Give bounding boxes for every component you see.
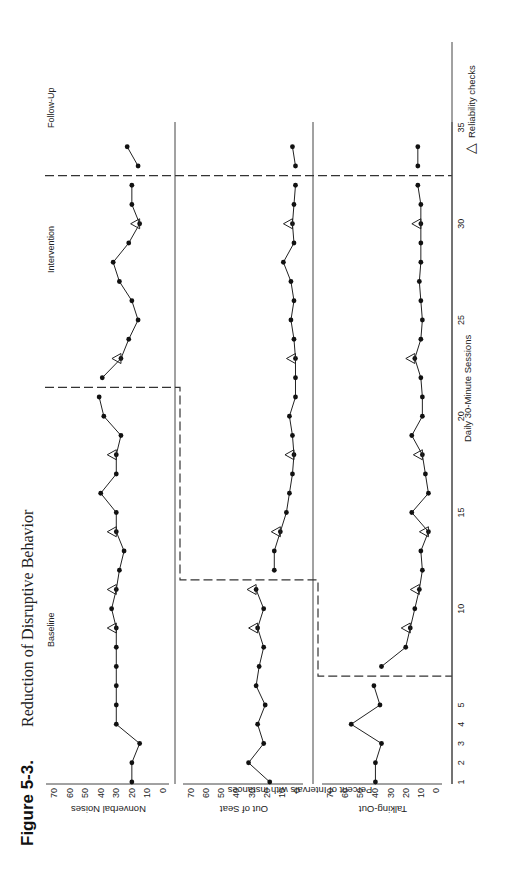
data-point bbox=[137, 741, 142, 746]
y-tick-label: 40 bbox=[96, 788, 106, 798]
data-point bbox=[129, 298, 134, 303]
y-tick-label: 50 bbox=[216, 788, 226, 798]
x-tick-label: 10 bbox=[456, 604, 466, 614]
data-point bbox=[412, 606, 417, 611]
x-tick-label: 2 bbox=[456, 760, 466, 765]
data-point bbox=[114, 703, 119, 708]
data-point bbox=[420, 318, 425, 323]
data-point bbox=[423, 472, 428, 477]
data-point bbox=[114, 510, 119, 515]
data-point bbox=[129, 183, 134, 188]
data-point bbox=[373, 760, 378, 765]
figure-title: Figure 5-3. Reduction of Disruptive Beha… bbox=[18, 509, 37, 846]
data-point bbox=[255, 722, 260, 727]
y-tick-label: 20 bbox=[401, 788, 411, 798]
rotated-figure: Figure 5-3. Reduction of Disruptive Beha… bbox=[0, 0, 508, 882]
data-point bbox=[292, 241, 297, 246]
baseline-intervention-divider bbox=[45, 387, 452, 676]
data-point bbox=[420, 395, 425, 400]
data-point bbox=[373, 780, 378, 785]
reliability-triangle-icon: △ bbox=[462, 143, 478, 154]
panel-label: Nonverbal Noises bbox=[71, 804, 146, 815]
data-point bbox=[372, 683, 377, 688]
data-point bbox=[272, 549, 277, 554]
phase-labels: Baseline Intervention Follow-Up bbox=[46, 87, 56, 647]
data-point bbox=[100, 375, 105, 380]
y-tick-label: 0 bbox=[431, 788, 441, 793]
multiple-baseline-chart: Figure 5-3. Reduction of Disruptive Beha… bbox=[0, 0, 508, 882]
data-point bbox=[263, 703, 268, 708]
x-tick-label: 3 bbox=[456, 741, 466, 746]
data-point bbox=[254, 683, 259, 688]
data-point bbox=[109, 606, 114, 611]
y-tick-label: 70 bbox=[186, 788, 196, 798]
y-tick-label: 10 bbox=[416, 788, 426, 798]
data-point bbox=[136, 164, 141, 169]
data-point bbox=[293, 164, 298, 169]
data-point bbox=[261, 606, 266, 611]
y-tick-label: 10 bbox=[142, 788, 152, 798]
data-point bbox=[114, 722, 119, 727]
data-point bbox=[126, 337, 131, 342]
data-point bbox=[119, 433, 124, 438]
data-point bbox=[420, 568, 425, 573]
figure-number: Figure 5-3. bbox=[18, 760, 37, 846]
data-point bbox=[261, 741, 266, 746]
panel-talking-out: 706050403020100Talking-Out bbox=[322, 122, 452, 815]
data-point bbox=[111, 260, 116, 265]
phase-label-baseline: Baseline bbox=[46, 612, 56, 647]
data-point bbox=[126, 241, 131, 246]
data-point bbox=[418, 260, 423, 265]
data-point bbox=[415, 144, 420, 149]
data-point bbox=[114, 683, 119, 688]
panel-out-of-seat: 706050403020100Out of Seat bbox=[183, 122, 313, 815]
data-point bbox=[287, 491, 292, 496]
data-point bbox=[292, 298, 297, 303]
data-point bbox=[122, 549, 127, 554]
data-point bbox=[117, 279, 122, 284]
data-point bbox=[129, 202, 134, 207]
x-tick-label: 30 bbox=[456, 219, 466, 229]
data-point bbox=[246, 760, 251, 765]
x-tick-label: 4 bbox=[456, 722, 466, 727]
data-point bbox=[125, 144, 130, 149]
data-point bbox=[101, 414, 106, 419]
y-tick-label: 20 bbox=[127, 788, 137, 798]
data-point bbox=[290, 144, 295, 149]
data-point bbox=[420, 414, 425, 419]
data-point bbox=[292, 202, 297, 207]
data-point bbox=[418, 549, 423, 554]
y-tick-label: 70 bbox=[49, 788, 59, 798]
data-point bbox=[418, 375, 423, 380]
data-point bbox=[426, 491, 431, 496]
data-point bbox=[292, 337, 297, 342]
x-axis-label: Daily 30-Minute Sessions bbox=[462, 335, 473, 442]
legend-label: Reliability checks bbox=[466, 65, 477, 138]
y-tick-label: 60 bbox=[201, 788, 211, 798]
y-axis-label: Percent of Intervals with Instances bbox=[227, 785, 372, 796]
y-tick-label: 30 bbox=[111, 788, 121, 798]
y-tick-label: 30 bbox=[386, 788, 396, 798]
x-tick-label: 15 bbox=[456, 507, 466, 517]
data-point bbox=[261, 645, 266, 650]
data-point bbox=[293, 183, 298, 188]
data-point bbox=[418, 241, 423, 246]
panel-label: Out of Seat bbox=[220, 804, 268, 815]
y-tick-label: 60 bbox=[65, 788, 75, 798]
data-point bbox=[290, 433, 295, 438]
data-point bbox=[284, 510, 289, 515]
data-point bbox=[379, 741, 384, 746]
data-point bbox=[415, 164, 420, 169]
data-point bbox=[289, 279, 294, 284]
data-point bbox=[129, 760, 134, 765]
data-point bbox=[379, 664, 384, 669]
data-point bbox=[378, 703, 383, 708]
x-tick-label: 25 bbox=[456, 315, 466, 325]
data-point bbox=[418, 298, 423, 303]
data-point bbox=[415, 183, 420, 188]
panels: 706050403020100Nonverbal Noises706050403… bbox=[45, 122, 452, 815]
x-tick-label: 5 bbox=[456, 702, 466, 707]
panel-nonverbal-noises: 706050403020100Nonverbal Noises bbox=[46, 122, 175, 815]
figure-title-text: Reduction of Disruptive Behavior bbox=[19, 509, 37, 727]
data-point bbox=[281, 260, 286, 265]
